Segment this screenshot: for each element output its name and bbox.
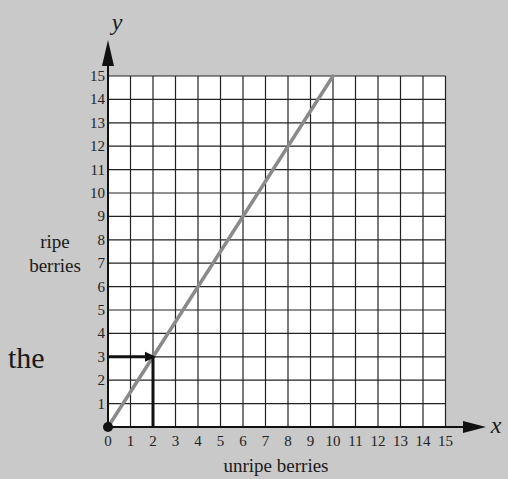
- y-tick-label: 1: [98, 396, 106, 412]
- grid: [108, 76, 446, 427]
- y-tick-label: 7: [98, 255, 106, 271]
- y-axis-arrow-icon: [102, 40, 114, 66]
- x-tick-label: 0: [104, 433, 112, 449]
- y-tick-label: 8: [98, 232, 106, 248]
- x-tick-label: 12: [371, 433, 386, 449]
- x-axis-label: unripe berries: [224, 455, 329, 476]
- y-tick-label: 15: [90, 68, 105, 84]
- y-tick-label: 12: [90, 138, 105, 154]
- y-axis-label-line1: ripe: [40, 231, 70, 252]
- x-tick-label: 7: [262, 433, 270, 449]
- x-tick-label: 14: [416, 433, 432, 449]
- plot-area: [108, 76, 446, 427]
- x-axis-symbol: x: [490, 412, 502, 438]
- x-tick-label: 15: [438, 433, 453, 449]
- x-tick-label: 1: [127, 433, 135, 449]
- x-tick-label: 9: [307, 433, 315, 449]
- x-tick-label: 13: [393, 433, 408, 449]
- y-tick-label: 5: [98, 302, 106, 318]
- x-tick-label: 4: [194, 433, 202, 449]
- x-tick-label: 10: [326, 433, 341, 449]
- y-tick-label: 4: [98, 325, 106, 341]
- y-tick-label: 13: [90, 115, 105, 131]
- y-axis-label-line2: berries: [29, 255, 81, 276]
- origin-point: [103, 422, 113, 432]
- x-tick-label: 6: [239, 433, 247, 449]
- chart: 0123456789101112131415123456789101112131…: [0, 0, 508, 479]
- y-tick-label: 10: [90, 185, 105, 201]
- x-tick-label: 5: [217, 433, 225, 449]
- y-tick-label: 9: [98, 208, 106, 224]
- y-tick-label: 11: [91, 162, 105, 178]
- x-tick-label: 8: [284, 433, 292, 449]
- y-tick-label: 6: [98, 279, 106, 295]
- y-tick-label: 14: [90, 91, 106, 107]
- x-tick-label: 3: [172, 433, 180, 449]
- y-tick-label: 3: [98, 349, 106, 365]
- x-tick-label: 2: [149, 433, 157, 449]
- x-tick-label: 11: [348, 433, 362, 449]
- y-axis-symbol: y: [110, 9, 123, 35]
- x-axis-arrow-icon: [463, 421, 486, 433]
- y-tick-label: 2: [98, 372, 106, 388]
- side-text: the: [8, 341, 45, 374]
